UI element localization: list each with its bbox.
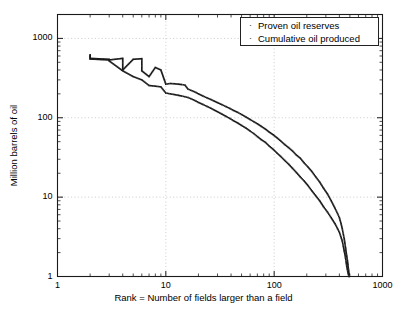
y-axis-label-wrapper: Million barrels of oil bbox=[6, 0, 22, 290]
legend-label: Proven oil reserves bbox=[255, 20, 339, 32]
x-tick-label: 10 bbox=[146, 280, 186, 290]
chart-legend: · Proven oil reserves · Cumulative oil p… bbox=[240, 17, 379, 46]
y-tick-label: 100 bbox=[19, 112, 53, 122]
plot-frame bbox=[58, 15, 383, 277]
legend-item-proven-oil-reserves: · Proven oil reserves bbox=[241, 19, 378, 32]
major-tick-marks bbox=[58, 15, 383, 277]
chart-plot-svg bbox=[0, 0, 407, 315]
y-tick-label: 10 bbox=[19, 191, 53, 201]
legend-marker-icon: · bbox=[246, 34, 255, 43]
x-tick-label: 100 bbox=[254, 280, 294, 290]
x-tick-label: 1000 bbox=[363, 280, 403, 290]
series-1 bbox=[89, 55, 350, 277]
y-tick-label: 1000 bbox=[19, 32, 53, 42]
data-points bbox=[89, 54, 350, 277]
legend-item-cumulative-oil-produced: · Cumulative oil produced bbox=[241, 32, 378, 45]
legend-label: Cumulative oil produced bbox=[255, 33, 360, 45]
minor-tick-marks bbox=[58, 15, 383, 277]
legend-marker-icon: · bbox=[246, 21, 255, 30]
x-axis-label: Rank = Number of fields larger than a fi… bbox=[0, 292, 407, 303]
chart-figure: Million barrels of oil Rank = Number of … bbox=[0, 0, 407, 315]
series-0 bbox=[89, 54, 350, 276]
x-tick-label: 1 bbox=[38, 280, 78, 290]
grid-lines bbox=[58, 15, 383, 277]
